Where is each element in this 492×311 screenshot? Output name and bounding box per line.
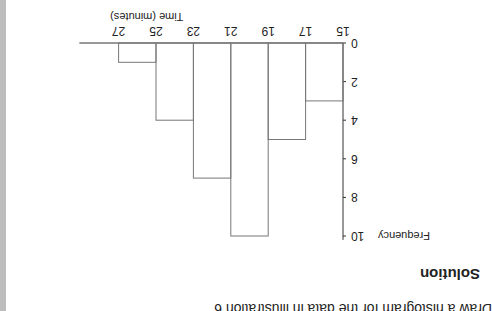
y-axis-label: Frequency: [378, 230, 430, 242]
histogram-bar: [306, 43, 343, 101]
x-tick-label: 23: [186, 24, 200, 38]
page: Draw a histogram for the data in illustr…: [0, 0, 492, 311]
y-tick-label: 2: [351, 75, 358, 89]
histogram-bar: [268, 43, 305, 140]
y-tick-label: 10: [351, 229, 365, 243]
histogram-bar: [231, 43, 268, 236]
histogram-bar: [193, 43, 230, 178]
x-tick-label: 27: [112, 24, 126, 38]
x-tick-label: 17: [299, 24, 313, 38]
y-tick-label: 4: [351, 113, 358, 127]
y-tick-label: 8: [351, 190, 358, 204]
histogram-bar: [119, 43, 156, 62]
histogram-chart: 024681015171921232527Time (minutes)Frequ…: [0, 0, 492, 311]
x-tick-label: 19: [261, 24, 275, 38]
x-axis-label: Time (minutes): [110, 11, 183, 23]
y-tick-label: 0: [351, 36, 358, 50]
x-tick-label: 21: [224, 24, 238, 38]
rotated-page: Draw a histogram for the data in illustr…: [0, 0, 492, 311]
y-tick-label: 6: [351, 152, 358, 166]
histogram-bar: [156, 43, 193, 120]
x-tick-label: 15: [336, 24, 350, 38]
x-tick-label: 25: [149, 24, 163, 38]
